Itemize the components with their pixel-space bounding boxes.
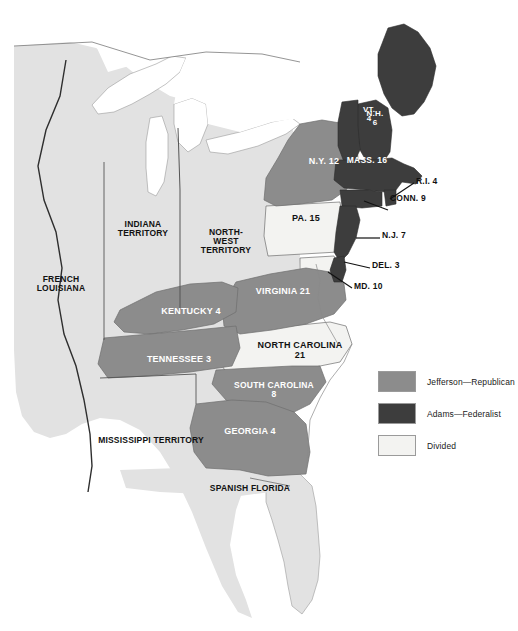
election-map: VT. 4 N.H. 6 MASS. 16 R.I. 4 CONN. 9 N.Y… <box>0 0 518 631</box>
state-pennsylvania <box>264 202 346 256</box>
legend-item-federalist: Adams—Federalist <box>378 403 518 424</box>
federalist-states <box>330 24 436 282</box>
state-georgia <box>190 400 310 476</box>
state-vermont <box>338 100 360 162</box>
legend-item-divided: Divided <box>378 435 518 456</box>
state-new-hampshire <box>356 100 392 164</box>
legend-item-republican: Jefferson—Republican <box>378 371 518 392</box>
map-legend: Jefferson—Republican Adams—Federalist Di… <box>378 371 518 467</box>
legend-label-federalist: Adams—Federalist <box>427 409 501 419</box>
state-rhode-island <box>384 190 396 206</box>
legend-label-divided: Divided <box>427 441 456 451</box>
leader-line-delaware <box>344 262 370 268</box>
map-geography <box>0 0 518 631</box>
legend-swatch-federalist <box>378 403 416 424</box>
florida-peninsula-land <box>266 474 320 614</box>
legend-label-republican: Jefferson—Republican <box>427 377 515 387</box>
legend-swatch-divided <box>378 435 416 456</box>
legend-swatch-republican <box>378 371 416 392</box>
district-of-maine <box>378 24 436 116</box>
